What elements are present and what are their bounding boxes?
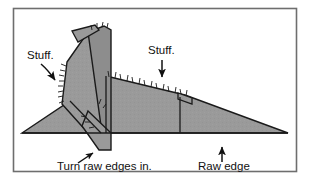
annotation-label-turn-raw-edges-in: Turn raw edges in. xyxy=(57,160,152,172)
figure-container: Stuff. Stuff. Turn raw edges in. Raw edg… xyxy=(0,0,315,189)
annotation-label-raw-edge: Raw edge xyxy=(198,160,250,172)
annotation-label-stuff-right: Stuff. xyxy=(148,44,175,56)
annotation-label-stuff-left: Stuff. xyxy=(27,49,54,61)
fabric-diagram-svg: Stuff. Stuff. Turn raw edges in. Raw edg… xyxy=(0,0,315,189)
